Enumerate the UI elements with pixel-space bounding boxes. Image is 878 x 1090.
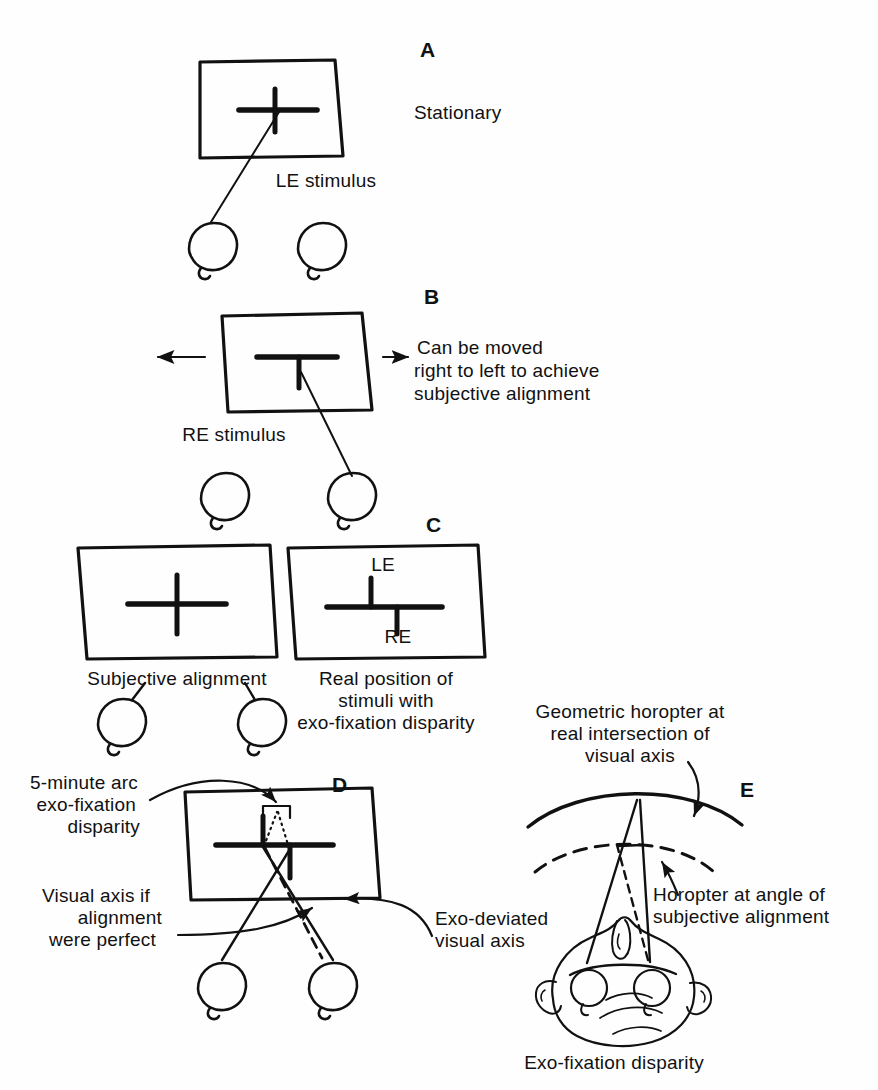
panel-e-ear-left (536, 981, 561, 1013)
panel-d-label-exo-line1: Exo-deviated (435, 908, 548, 930)
panel-letter-a: A (420, 38, 436, 63)
panel-c-marker-le: LE (371, 554, 395, 576)
panel-b-sight-line (301, 372, 352, 476)
panel-c-caption-real-line2: stimuli with (338, 690, 433, 712)
panel-d-label-axis-line2: alignment (78, 907, 162, 929)
panel-e-subjective-horopter-arc (535, 844, 714, 872)
panel-a-sight-line (211, 112, 279, 222)
panel-e-label-geometric-line2: real intersection of (550, 723, 709, 745)
panel-e-ear-right-detail (701, 991, 705, 1002)
panel-d-eye-right (309, 963, 357, 1019)
panel-e-eye-right (634, 970, 670, 1006)
panel-e-face-contour-3 (613, 1027, 661, 1034)
panel-e-axis-right (640, 800, 650, 962)
panel-e-label-geometric-line3: visual axis (585, 745, 675, 767)
panel-c-caption-subjective-alignment: Subjective alignment (87, 668, 266, 690)
panel-a-caption-le-stimulus: LE stimulus (276, 170, 376, 192)
panel-a-note-stationary: Stationary (414, 102, 502, 124)
panel-d-label-disparity-line1: 5-minute arc (30, 772, 138, 794)
panel-c-eye-left (98, 683, 146, 755)
panel-e-label-horopter-line1: Horopter at angle of (653, 884, 825, 906)
panel-e-face-contour-1 (606, 993, 652, 1000)
panel-c-screen-left (78, 545, 277, 659)
panel-letter-d: D (332, 773, 348, 798)
panel-d-axis-re-to-left-eye (222, 849, 290, 960)
panel-d-label-disparity-line2: exo-fixation (36, 794, 136, 816)
panel-e-caption-exo-fixation-disparity: Exo-fixation disparity (524, 1052, 704, 1074)
panel-e-skull-outline (552, 917, 694, 1046)
panel-d-dotted-left (264, 812, 277, 846)
panel-c-caption-real-line1: Real position of (319, 668, 453, 690)
panel-a-screen (200, 60, 343, 222)
panel-letter-c: C (426, 513, 442, 538)
panel-d-exo-dashed-axis (265, 848, 322, 958)
panel-d-label-exo-line2: visual axis (435, 930, 525, 952)
panel-e-nose-detail (618, 934, 620, 949)
panel-e-nose (612, 920, 630, 959)
panel-e-label-geometric-line1: Geometric horopter at (535, 701, 724, 723)
panel-c-marker-re: RE (385, 626, 412, 648)
panel-d-eye-left (198, 963, 246, 1019)
panel-a-eye-right (298, 223, 346, 279)
panel-e-face-contour-2 (600, 1007, 662, 1018)
panel-d-label-axis-line3: were perfect (49, 929, 156, 951)
panel-letter-e: E (740, 778, 755, 803)
panel-e-ear-left-detail (541, 990, 545, 1001)
figure-root: A Stationary LE stimulus B Can be moved … (0, 0, 878, 1090)
panel-b-eye-right (328, 473, 376, 529)
panel-b-caption-re-stimulus: RE stimulus (182, 424, 286, 446)
panel-e-label-horopter-line2: subjective alignment (653, 906, 829, 928)
panel-d-label-disparity-line3: disparity (67, 816, 140, 838)
panel-a-eye-left (189, 223, 237, 279)
panel-b-eye-left (201, 473, 249, 529)
panel-b-note-line3: subjective alignment (414, 383, 590, 405)
panel-c-eye-right (238, 683, 286, 755)
panel-b-note-line1: Can be moved (417, 337, 543, 359)
panel-c-caption-real-line3: exo-fixation disparity (297, 712, 475, 734)
panel-e-leader-geometric (688, 762, 699, 816)
panel-e-head (536, 917, 711, 1046)
panel-e-subjective-tick (618, 845, 642, 846)
panel-letter-b: B (424, 285, 440, 310)
panel-d-label-axis-line1: Visual axis if (42, 885, 150, 907)
panel-e-eye-left (571, 970, 607, 1006)
panel-d-leader-exo-axis (344, 898, 432, 936)
panel-b-note-line2: right to left to achieve (414, 360, 599, 382)
panel-b-screen (158, 313, 408, 476)
panel-d-screen (150, 781, 432, 960)
